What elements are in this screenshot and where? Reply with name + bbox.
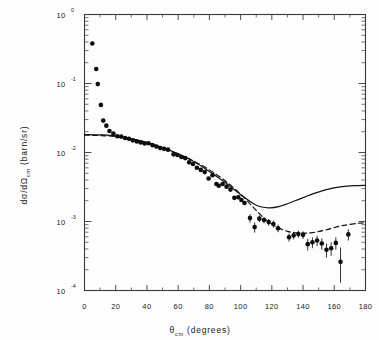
data-point [171,152,176,157]
data-point [138,140,143,145]
data-point [162,147,167,152]
y-tick-label: 10 [57,218,66,227]
data-point [107,129,112,134]
data-point [271,222,276,227]
data-point [232,196,237,201]
y-tick-label: 10 [57,80,66,89]
x-tick-label: 60 [174,302,183,311]
data-point [111,131,116,136]
data-point [346,232,351,237]
x-tick-label: 80 [205,302,214,311]
y-tick-label: 10 [57,11,66,20]
x-tick-label: 20 [111,302,120,311]
x-tick-label: 180 [359,302,373,311]
data-point [175,153,180,158]
y-tick-label: 10 [57,149,66,158]
data-point [224,184,229,189]
data-point [142,141,147,146]
figure-container: 02040608010012014016018010010-110-210-31… [0,0,379,340]
data-point [242,201,247,206]
plot-frame [85,15,366,291]
data-point [338,260,343,265]
data-point [115,134,120,139]
x-tick-label: 100 [234,302,248,311]
data-point [305,242,310,247]
cross-section-plot: 02040608010012014016018010010-110-210-31… [0,0,379,340]
data-point [252,225,257,230]
y-tick-exponent: -2 [71,145,76,151]
data-point [248,216,253,221]
theory-curve-dashed [85,135,366,233]
x-tick-label: 120 [265,302,279,311]
x-tick-label: 0 [82,302,87,311]
data-point [134,139,139,144]
y-tick-exponent: -3 [71,214,76,220]
data-point [101,118,106,123]
y-tick-exponent: -1 [71,76,76,82]
data-point [90,41,95,46]
data-point [310,240,315,245]
data-point [228,187,233,192]
data-point [319,241,324,246]
data-point [94,67,99,72]
y-tick-exponent: 0 [71,7,74,13]
data-point [276,226,281,231]
data-point [206,176,211,181]
data-point [220,182,225,187]
data-point [123,136,128,141]
data-point [166,147,171,152]
data-point [301,233,306,238]
data-point [315,238,320,243]
data-point [99,103,104,108]
x-tick-label: 160 [327,302,341,311]
x-tick-label: 140 [296,302,310,311]
theory-curve-solid [85,135,366,208]
data-point [262,218,267,223]
data-point [291,233,296,238]
data-point [183,156,188,161]
data-point [287,235,292,240]
y-tick-exponent: -4 [71,283,76,289]
data-point [334,241,339,246]
data-point [257,216,262,221]
data-point [104,123,109,128]
data-point [179,155,184,160]
data-point [210,173,215,178]
data-point [199,168,204,173]
data-point [158,146,163,151]
data-point [195,166,200,171]
data-point [324,247,329,252]
y-tick-label: 10 [57,287,66,296]
data-point [191,162,196,167]
data-point [131,138,136,143]
data-point [266,220,271,225]
data-point [95,82,100,87]
y-axis-title: dσ/dΩcm (barn/sr) [19,126,31,205]
x-tick-label: 40 [142,302,151,311]
data-point [202,170,207,175]
data-point [329,246,334,251]
data-point [296,232,301,237]
x-axis-title: θcm (degrees) [169,325,230,337]
data-point [146,141,151,146]
